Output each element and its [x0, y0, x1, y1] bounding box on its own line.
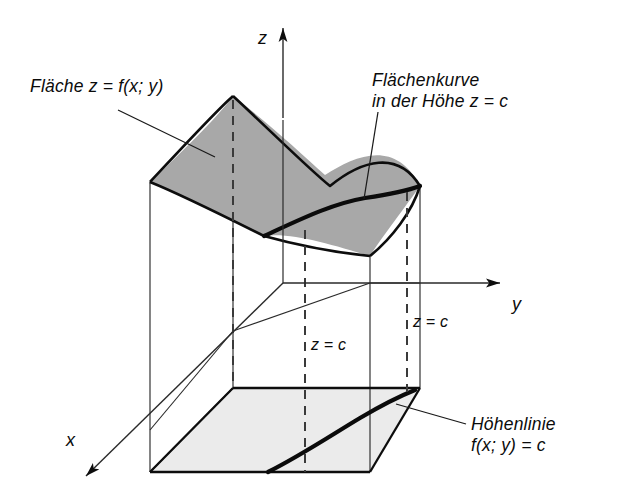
figure-canvas: Fläche z = f(x; y) Flächenkurve in der H… [0, 0, 621, 504]
label-level-curve-line1: Flächenkurve [372, 70, 508, 91]
leader-hoehenlinie [396, 404, 466, 424]
label-surface-equation: Fläche z = f(x; y) [30, 76, 163, 97]
surface-patch [150, 96, 420, 256]
axis-label-x: x [66, 430, 75, 451]
label-level-curve-line2: in der Höhe z = c [372, 91, 508, 112]
plane-label-z-equals-c-back: z = c [413, 313, 448, 332]
plane-label-z-equals-c-front: z = c [311, 336, 346, 355]
label-contour-line-line2: f(x; y) = c [471, 435, 556, 456]
axis-label-z: z [258, 28, 267, 49]
label-contour-line: Höhenlinie f(x; y) = c [471, 414, 556, 455]
axis-label-y: y [512, 294, 521, 315]
label-contour-line-line1: Höhenlinie [471, 414, 556, 435]
label-level-curve: Flächenkurve in der Höhe z = c [372, 70, 508, 111]
